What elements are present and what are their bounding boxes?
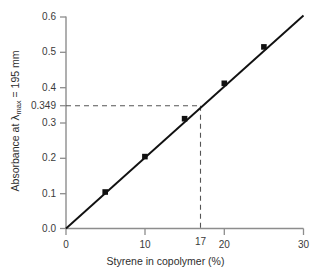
x-tick-label-20: 20 [210,240,238,250]
data-point [222,81,228,87]
x-tick-label-30: 30 [290,240,318,250]
y-tick-label-0.2: 0.2 [20,153,56,163]
data-point [182,116,188,122]
y-tick-label-0.4: 0.4 [20,83,56,93]
y-tick-label-0.1: 0.1 [20,189,56,199]
y-tick-label-0.349: 0.349 [20,101,56,111]
lambda-symbol: λ [9,115,21,121]
y-tick-label-0.5: 0.5 [20,47,56,57]
y-tick-label-0.6: 0.6 [20,12,56,22]
chart-figure: 0.6 0.5 0.4 0.349 0.3 0.2 0.1 0.0 0 10 1… [0,0,331,276]
x-tick-label-0: 0 [52,240,80,250]
lambda-subscript: max [14,100,23,114]
x-axis-title: Styrene in copolymer (%) [0,255,331,267]
y-tick-label-0.3: 0.3 [20,118,56,128]
y-tick-label-0.0: 0.0 [20,224,56,234]
data-point [261,44,267,50]
y-axis-ticks [60,17,66,229]
data-point [142,154,148,160]
calibration-fit-line [66,16,304,229]
plot-area [0,0,331,276]
x-axis-ticks [66,229,304,236]
data-point [102,189,108,195]
y-axis-title-suffix: = 195 mm [9,50,21,100]
data-point-markers [102,44,266,195]
y-axis-title: Absorbance at λmax = 195 mm [9,21,23,221]
y-axis-title-prefix: Absorbance at [9,121,21,192]
x-tick-label-10: 10 [131,240,159,250]
